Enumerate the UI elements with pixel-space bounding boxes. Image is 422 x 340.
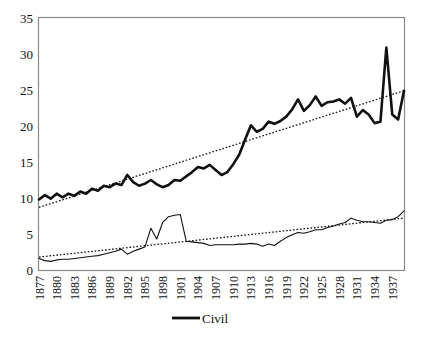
x-tick-label: 1904	[191, 276, 205, 300]
x-tick-label: 1910	[227, 276, 241, 300]
x-tick-label: 1913	[244, 276, 258, 300]
y-tick-label: 5	[27, 227, 34, 242]
legend-label-civil: Civil	[202, 311, 228, 326]
line-chart: 05101520253035 1877188018831886188918921…	[0, 0, 422, 340]
x-tick-label: 1919	[280, 276, 294, 300]
x-tick-label: 1907	[209, 276, 223, 300]
x-tick-label: 1886	[85, 276, 99, 300]
x-tick-label: 1922	[297, 276, 311, 300]
y-tick-label: 15	[20, 155, 33, 170]
y-tick-label: 30	[20, 47, 33, 62]
y-tick-label: 35	[20, 11, 33, 26]
x-tick-label: 1880	[50, 276, 64, 300]
x-tick-label: 1928	[333, 276, 347, 300]
x-tick-label: 1901	[174, 276, 188, 300]
x-axis: 1877188018831886188918921895189819011904…	[33, 276, 400, 300]
y-tick-label: 10	[20, 191, 33, 206]
x-tick-label: 1895	[138, 276, 152, 300]
x-tick-label: 1934	[368, 276, 382, 300]
x-tick-label: 1916	[262, 276, 276, 300]
x-tick-label: 1877	[33, 276, 47, 300]
x-tick-label: 1937	[386, 276, 400, 300]
x-tick-label: 1883	[68, 276, 82, 300]
y-tick-label: 25	[20, 83, 33, 98]
x-tick-label: 1898	[156, 276, 170, 300]
x-tick-label: 1892	[121, 276, 135, 300]
x-tick-label: 1889	[103, 276, 117, 300]
x-tick-label: 1931	[350, 276, 364, 300]
y-tick-label: 0	[27, 263, 34, 278]
x-tick-label: 1925	[315, 276, 329, 300]
y-tick-label: 20	[20, 119, 33, 134]
chart-figure: 05101520253035 1877188018831886188918921…	[0, 0, 422, 340]
